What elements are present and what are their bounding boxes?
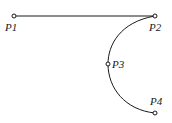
point-p1-marker	[12, 14, 16, 18]
point-p4-marker	[153, 111, 157, 115]
point-p2-marker	[153, 14, 157, 18]
point-p1-label: P1	[4, 21, 17, 33]
point-p2-label: P2	[148, 21, 162, 33]
point-p3-label: P3	[111, 58, 125, 70]
point-p4-label: P4	[149, 95, 163, 107]
curve-diagram: P1 P2 P3 P4	[0, 0, 172, 123]
point-p3-marker	[106, 62, 110, 66]
